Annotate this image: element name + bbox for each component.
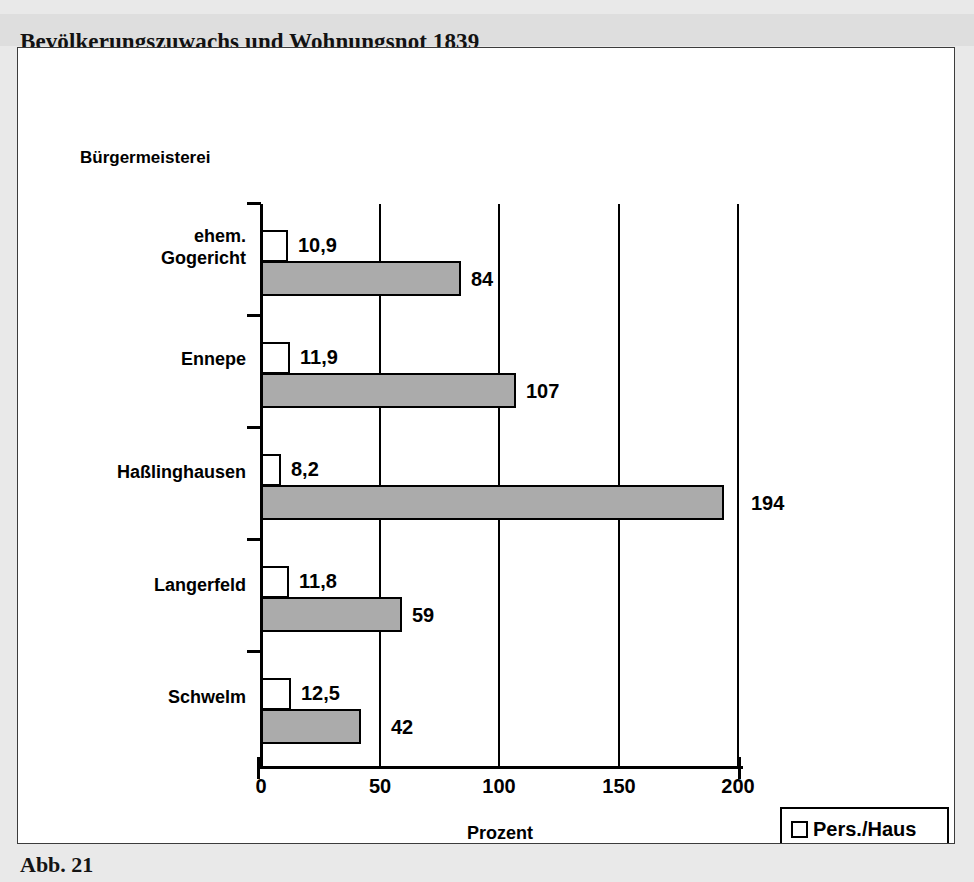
bar-value-bev-zuwachs-ehem-gogericht: 84 xyxy=(471,269,493,289)
x-tick-label-200: 200 xyxy=(721,775,754,798)
bar-pers-haus-ehem-gogericht xyxy=(261,230,288,262)
category-label-line: Schwelm xyxy=(36,687,246,709)
bar-pers-haus-ennepe xyxy=(261,342,290,374)
category-label-line: Ennepe xyxy=(36,349,246,371)
gridline-200 xyxy=(737,204,739,766)
figure-caption: Abb. 21 xyxy=(20,852,93,878)
legend-item-pers-haus: Pers./Haus xyxy=(791,816,937,843)
bar-bev-zuwachs-langerfeld xyxy=(261,597,402,632)
bar-value-pers-haus-ennepe: 11,9 xyxy=(300,347,338,367)
category-label-line: ehem. xyxy=(36,226,246,248)
bar-bev-zuwachs-ennepe xyxy=(261,373,516,408)
x-axis-title: Prozent xyxy=(261,823,739,844)
bar-pers-haus-langerfeld xyxy=(261,566,289,598)
category-label-line: Gogericht xyxy=(36,248,246,270)
chart-panel: Bürgermeisterei ehem. Gogericht Ennepe H… xyxy=(17,47,955,844)
bar-bev-zuwachs-ehem-gogericht xyxy=(261,261,461,296)
x-tick-label-50: 50 xyxy=(369,775,391,798)
bar-pers-haus-schwelm xyxy=(261,678,291,710)
bar-bev-zuwachs-hasslinghausen xyxy=(261,485,724,520)
category-label-ennepe: Ennepe xyxy=(36,349,246,371)
y-axis-tick-1 xyxy=(247,314,261,317)
category-label-ehem-gogericht: ehem. Gogericht xyxy=(36,226,246,270)
bar-pers-haus-hasslinghausen xyxy=(261,454,281,486)
y-axis-tick-3 xyxy=(247,538,261,541)
title-band: Bevölkerungszuwachs und Wohnungsnot 1839 xyxy=(0,14,974,46)
chart-legend: Pers./Haus Bev.zuwachs xyxy=(780,807,949,844)
bar-value-bev-zuwachs-schwelm: 42 xyxy=(391,717,413,737)
category-label-column: ehem. Gogericht Ennepe Haßlinghausen Lan… xyxy=(36,204,246,766)
y-axis-tick-4 xyxy=(247,650,261,653)
category-label-hasslinghausen: Haßlinghausen xyxy=(36,462,246,484)
figure-page: Bevölkerungszuwachs und Wohnungsnot 1839… xyxy=(0,0,974,882)
bar-value-pers-haus-hasslinghausen: 8,2 xyxy=(291,459,319,479)
bar-value-bev-zuwachs-hasslinghausen: 194 xyxy=(751,493,784,513)
x-axis-tick-labels: 0 50 100 150 200 xyxy=(261,775,739,805)
category-label-langerfeld: Langerfeld xyxy=(36,575,246,597)
bar-bev-zuwachs-schwelm xyxy=(261,709,361,744)
y-axis-tick-2 xyxy=(247,426,261,429)
y-axis-tick-top xyxy=(247,202,261,205)
x-tick-label-0: 0 xyxy=(255,775,266,798)
white-square-icon xyxy=(791,821,808,838)
category-label-line: Langerfeld xyxy=(36,575,246,597)
category-label-line: Haßlinghausen xyxy=(36,462,246,484)
bar-value-pers-haus-schwelm: 12,5 xyxy=(301,683,340,703)
x-tick-label-100: 100 xyxy=(482,775,515,798)
bar-value-bev-zuwachs-ennepe: 107 xyxy=(526,381,559,401)
plot-area: 10,9 84 11,9 107 8,2 194 11,8 59 12,5 42 xyxy=(261,204,739,766)
bar-value-pers-haus-langerfeld: 11,8 xyxy=(299,571,337,591)
bar-value-bev-zuwachs-langerfeld: 59 xyxy=(412,605,434,625)
x-tick-label-150: 150 xyxy=(602,775,635,798)
category-label-schwelm: Schwelm xyxy=(36,687,246,709)
bar-value-pers-haus-ehem-gogericht: 10,9 xyxy=(298,235,337,255)
legend-label-pers-haus: Pers./Haus xyxy=(813,818,916,841)
y-axis-group-heading: Bürgermeisterei xyxy=(80,148,210,168)
x-axis-line xyxy=(257,766,743,769)
legend-item-bev-zuwachs: Bev.zuwachs xyxy=(791,843,937,844)
